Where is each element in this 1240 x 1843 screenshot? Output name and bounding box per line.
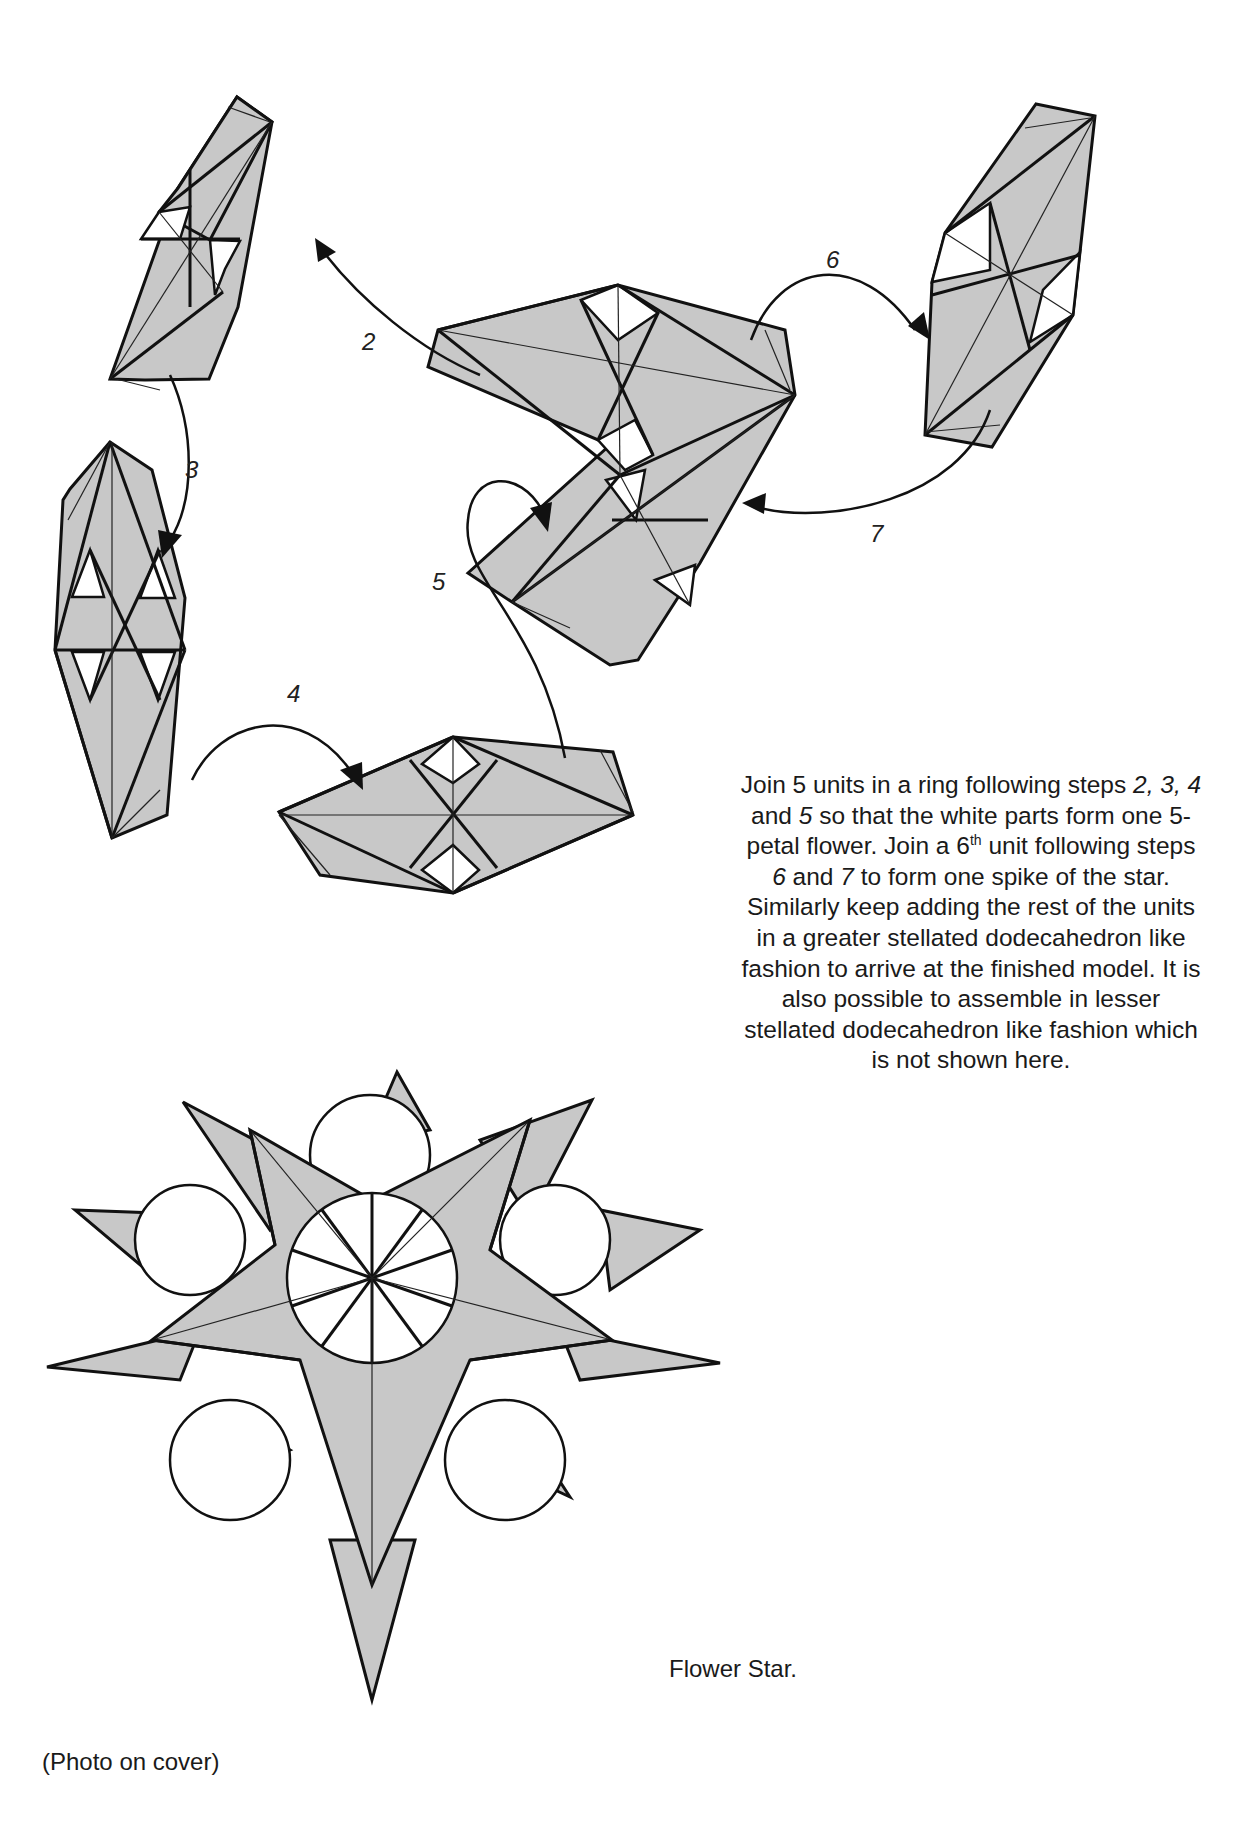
model-name-caption: Flower Star. (669, 1655, 797, 1683)
unit-center (428, 285, 795, 665)
step-arrow-6: 6 (751, 246, 930, 340)
unit-left (55, 442, 185, 838)
svg-text:3: 3 (185, 456, 199, 483)
svg-text:6: 6 (826, 246, 840, 273)
svg-text:7: 7 (870, 520, 885, 547)
assembly-instructions: Join 5 units in a ring following steps 2… (740, 770, 1202, 1076)
unit-upper-left (110, 97, 272, 390)
step-arrow-4: 4 (192, 680, 363, 790)
photo-note-caption: (Photo on cover) (42, 1748, 219, 1776)
unit-right (925, 104, 1095, 447)
svg-text:4: 4 (287, 680, 300, 707)
svg-text:2: 2 (361, 328, 375, 355)
unit-bottom (279, 737, 633, 893)
flower-star-model (47, 1072, 720, 1700)
svg-text:5: 5 (432, 568, 446, 595)
